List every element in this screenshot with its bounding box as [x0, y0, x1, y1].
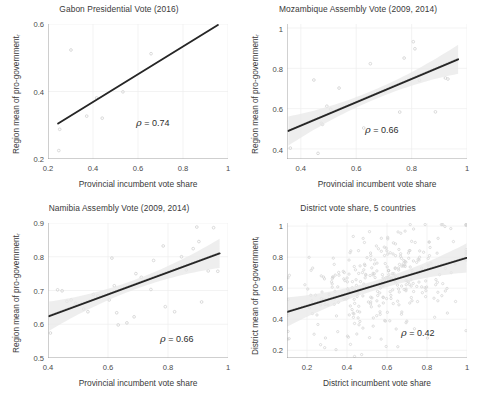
- x-tick-gabon-2: 0.6: [133, 164, 144, 173]
- x-tick-district-2: 0.6: [382, 363, 393, 372]
- x-tick-gabon-0: 0.2: [43, 164, 54, 173]
- x-tick-mozambique-3: 1: [465, 164, 469, 173]
- annotation-rho-district-value: = 0.42: [407, 328, 435, 338]
- y-tick-gabon-0: 0.2: [26, 155, 44, 164]
- x-axis-label-namibia: Provincial incumbent vote share: [38, 378, 238, 388]
- y-tick-mozambique-3: 1: [265, 24, 283, 33]
- plot-area-mozambique: [287, 24, 467, 159]
- y-axis-label-namibia: Region mean of pro-governmentr: [12, 233, 21, 353]
- plot-area-namibia: [48, 223, 228, 358]
- x-tick-district-3: 0.8: [422, 363, 433, 372]
- y-tick-gabon-2: 0.6: [26, 20, 44, 29]
- plot-area-gabon: [48, 24, 228, 159]
- x-tick-namibia-2: 0.8: [163, 363, 174, 372]
- x-tick-mozambique-2: 0.8: [406, 164, 417, 173]
- annotation-rho-district: ρ = 0.42: [401, 327, 434, 338]
- panel-title-namibia: Namibia Assembly Vote (2009, 2014): [0, 203, 238, 213]
- y-tick-mozambique-0: 0.4: [265, 145, 283, 154]
- y-tick-mozambique-2: 0.8: [265, 65, 283, 74]
- x-tick-gabon-4: 1: [226, 164, 230, 173]
- y-tick-namibia-4: 0.9: [26, 219, 44, 228]
- x-tick-gabon-1: 0.4: [88, 164, 99, 173]
- panel-title-mozambique: Mozambique Assembly Vote (2009, 2014): [239, 4, 477, 14]
- y-tick-namibia-2: 0.7: [26, 286, 44, 295]
- panel-mozambique: Mozambique Assembly Vote (2009, 2014) Re…: [239, 4, 477, 200]
- x-tick-namibia-1: 0.6: [103, 363, 114, 372]
- y-tick-district-4: 1: [265, 222, 283, 231]
- figure-panel-grid: Gabon Presidential Vote (2016) Region me…: [0, 0, 477, 399]
- annotation-rho-gabon-value: = 0.74: [142, 118, 170, 128]
- x-tick-district-0: 0.2: [302, 363, 313, 372]
- x-axis-label-gabon: Provincial incumbent vote share: [38, 179, 238, 189]
- x-axis-label-mozambique: Provincial incumbent vote share: [277, 179, 477, 189]
- y-axis-label-mozambique: Region mean of pro-governmentr: [251, 34, 260, 154]
- annotation-rho-namibia-value: = 0.66: [166, 334, 194, 344]
- x-tick-gabon-3: 0.8: [178, 164, 189, 173]
- x-tick-district-1: 0.4: [342, 363, 353, 372]
- y-tick-namibia-3: 0.8: [26, 252, 44, 261]
- y-tick-gabon-1: 0.4: [26, 87, 44, 96]
- x-tick-namibia-0: 0.4: [43, 363, 54, 372]
- y-axis-label-gabon: Region mean of pro-governmentr: [12, 34, 21, 154]
- x-tick-namibia-3: 1: [226, 363, 230, 372]
- panel-namibia: Namibia Assembly Vote (2009, 2014) Regio…: [0, 203, 238, 399]
- y-tick-district-2: 0.6: [265, 284, 283, 293]
- y-tick-namibia-0: 0.5: [26, 354, 44, 363]
- panel-title-gabon: Gabon Presidential Vote (2016): [0, 4, 238, 14]
- panel-district: District vote share, 5 countries Distric…: [239, 203, 477, 399]
- y-tick-district-0: 0.2: [265, 346, 283, 355]
- x-tick-mozambique-0: 0.4: [296, 164, 307, 173]
- panel-gabon: Gabon Presidential Vote (2016) Region me…: [0, 4, 238, 200]
- x-tick-district-4: 1: [465, 363, 469, 372]
- annotation-rho-namibia: ρ = 0.66: [160, 333, 193, 344]
- y-tick-mozambique-1: 0.6: [265, 105, 283, 114]
- y-tick-district-1: 0.4: [265, 315, 283, 324]
- annotation-rho-gabon: ρ = 0.74: [136, 117, 169, 128]
- y-tick-namibia-1: 0.6: [26, 320, 44, 329]
- y-axis-label-district: District mean of pro-governmenti: [251, 237, 260, 355]
- plot-area-district: [287, 223, 467, 358]
- annotation-rho-mozambique-value: = 0.66: [371, 125, 399, 135]
- panel-title-district: District vote share, 5 countries: [239, 203, 477, 213]
- x-axis-label-district: District incumbent vote share: [277, 378, 477, 388]
- annotation-rho-mozambique: ρ = 0.66: [365, 124, 398, 135]
- x-tick-mozambique-1: 0.6: [351, 164, 362, 173]
- y-tick-district-3: 0.8: [265, 253, 283, 262]
